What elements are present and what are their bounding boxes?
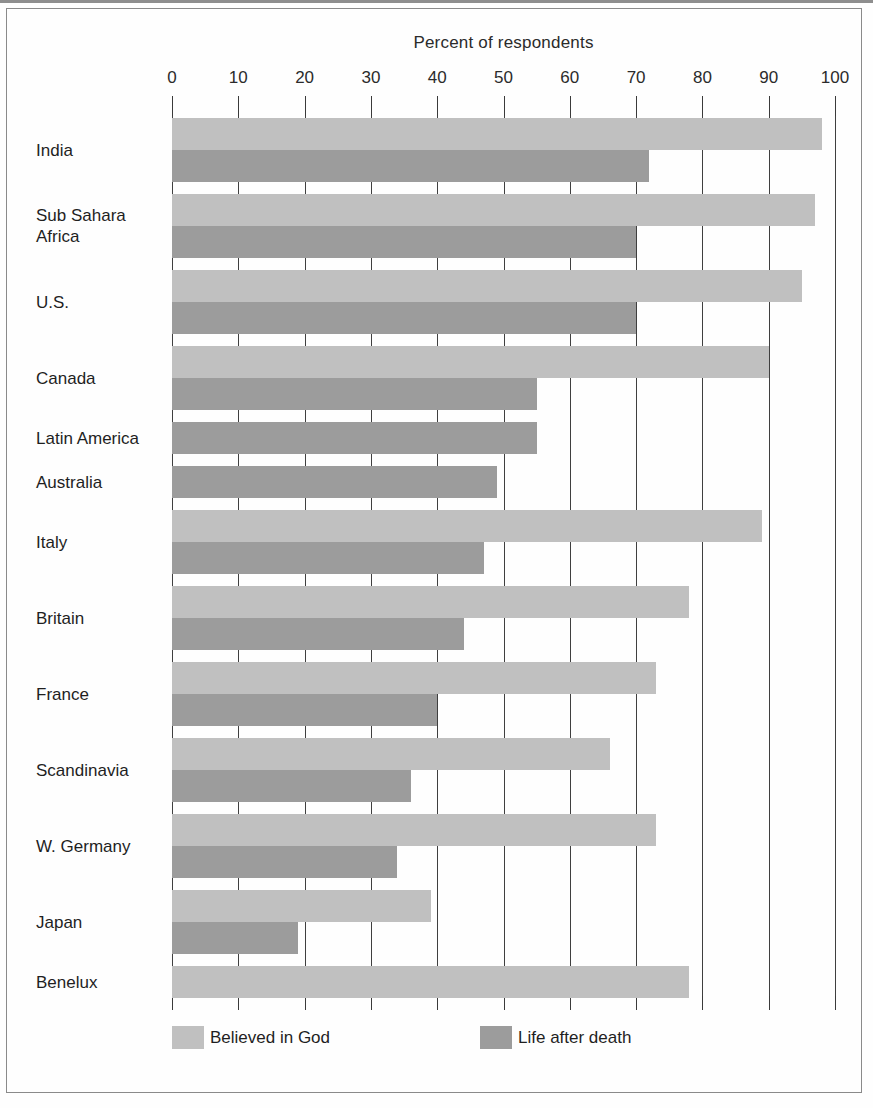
x-axis-tick-60 bbox=[570, 96, 571, 116]
chart-title: Percent of respondents bbox=[172, 33, 835, 53]
legend-item-afterlife: Life after death bbox=[480, 1026, 631, 1049]
x-axis-bottom-tick-80 bbox=[702, 996, 703, 1010]
x-axis-bottom-tick-20 bbox=[305, 996, 306, 1010]
gridline-80 bbox=[702, 116, 703, 996]
x-axis-tick-labels: 0102030405060708090100 bbox=[0, 68, 873, 92]
x-axis-bottom-tick-60 bbox=[570, 996, 571, 1010]
page-root: Percent of respondents 01020304050607080… bbox=[0, 0, 873, 1108]
bar-afterlife-4 bbox=[172, 422, 537, 454]
x-axis-tick-label-30: 30 bbox=[361, 68, 380, 88]
x-axis-tick-label-40: 40 bbox=[428, 68, 447, 88]
x-axis-tick-label-0: 0 bbox=[167, 68, 176, 88]
legend-swatch-god bbox=[172, 1026, 204, 1049]
bar-god-10 bbox=[172, 814, 656, 846]
x-axis-tick-label-20: 20 bbox=[295, 68, 314, 88]
bar-god-8 bbox=[172, 662, 656, 694]
bar-afterlife-3 bbox=[172, 378, 537, 410]
category-label-1: Sub Sahara Africa bbox=[36, 205, 166, 247]
x-axis-bottom-tick-10 bbox=[238, 996, 239, 1010]
x-axis-tick-label-90: 90 bbox=[759, 68, 778, 88]
x-axis-tick-10 bbox=[238, 96, 239, 116]
bar-afterlife-10 bbox=[172, 846, 397, 878]
legend-label-god: Believed in God bbox=[210, 1028, 330, 1048]
x-axis-tick-50 bbox=[504, 96, 505, 116]
bar-afterlife-5 bbox=[172, 466, 497, 498]
category-label-0: India bbox=[36, 140, 166, 161]
bar-god-1 bbox=[172, 194, 815, 226]
bar-god-11 bbox=[172, 890, 431, 922]
bar-afterlife-2 bbox=[172, 302, 636, 334]
category-label-8: France bbox=[36, 684, 166, 705]
legend-label-afterlife: Life after death bbox=[518, 1028, 631, 1048]
x-axis-bottom-tick-100 bbox=[835, 996, 836, 1010]
category-label-12: Benelux bbox=[36, 972, 166, 993]
x-axis-bottom-tick-30 bbox=[371, 996, 372, 1010]
x-axis-tick-label-10: 10 bbox=[229, 68, 248, 88]
bar-god-2 bbox=[172, 270, 802, 302]
category-label-3: Canada bbox=[36, 368, 166, 389]
bar-afterlife-6 bbox=[172, 542, 484, 574]
category-label-4: Latin America bbox=[36, 428, 166, 449]
x-axis-tick-90 bbox=[769, 96, 770, 116]
x-axis-tick-label-50: 50 bbox=[494, 68, 513, 88]
x-axis-tick-20 bbox=[305, 96, 306, 116]
bar-afterlife-8 bbox=[172, 694, 437, 726]
x-axis-tick-70 bbox=[636, 96, 637, 116]
x-axis-tick-label-60: 60 bbox=[560, 68, 579, 88]
x-axis-tick-30 bbox=[371, 96, 372, 116]
category-label-6: Italy bbox=[36, 532, 166, 553]
x-axis-tick-40 bbox=[437, 96, 438, 116]
x-axis-tick-80 bbox=[702, 96, 703, 116]
chart-plot-area: Percent of respondents 01020304050607080… bbox=[0, 0, 873, 1108]
category-label-11: Japan bbox=[36, 912, 166, 933]
bar-afterlife-0 bbox=[172, 150, 649, 182]
x-axis-tick-100 bbox=[835, 96, 836, 116]
x-axis-tick-label-80: 80 bbox=[693, 68, 712, 88]
x-axis-bottom-tick-70 bbox=[636, 996, 637, 1010]
category-label-2: U.S. bbox=[36, 292, 166, 313]
x-axis-bottom-tick-40 bbox=[437, 996, 438, 1010]
category-label-10: W. Germany bbox=[36, 836, 166, 857]
x-axis-bottom-tick-0 bbox=[172, 996, 173, 1010]
gridline-70 bbox=[636, 116, 637, 996]
x-axis-bottom-tick-90 bbox=[769, 996, 770, 1010]
x-axis-tick-label-100: 100 bbox=[821, 68, 849, 88]
bar-afterlife-7 bbox=[172, 618, 464, 650]
category-label-9: Scandinavia bbox=[36, 760, 166, 781]
x-axis-tick-label-70: 70 bbox=[627, 68, 646, 88]
legend-item-god: Believed in God bbox=[172, 1026, 330, 1049]
bar-afterlife-11 bbox=[172, 922, 298, 954]
bar-god-6 bbox=[172, 510, 762, 542]
gridline-100 bbox=[835, 116, 836, 996]
category-label-5: Australia bbox=[36, 472, 166, 493]
category-label-7: Britain bbox=[36, 608, 166, 629]
bar-afterlife-1 bbox=[172, 226, 636, 258]
x-axis-bottom-tick-50 bbox=[504, 996, 505, 1010]
bar-god-9 bbox=[172, 738, 610, 770]
legend-swatch-afterlife bbox=[480, 1026, 512, 1049]
bar-god-0 bbox=[172, 118, 822, 150]
bar-god-3 bbox=[172, 346, 769, 378]
gridline-90 bbox=[769, 116, 770, 996]
x-axis-tick-0 bbox=[172, 96, 173, 116]
bar-god-7 bbox=[172, 586, 689, 618]
chart-legend: Believed in GodLife after death bbox=[0, 1026, 873, 1056]
bar-god-12 bbox=[172, 966, 689, 998]
bar-afterlife-9 bbox=[172, 770, 411, 802]
